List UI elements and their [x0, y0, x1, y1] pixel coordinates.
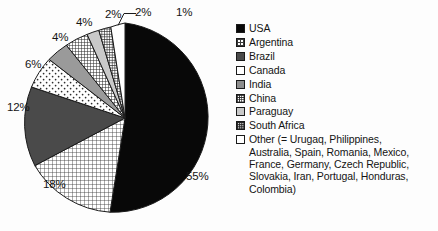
legend-item-china[interactable]: China	[236, 92, 436, 104]
legend-swatch-usa	[236, 24, 245, 33]
legend-label-other: Other (= Urugaq, Philippines, Australia,…	[249, 133, 424, 195]
legend-swatch-brazil	[236, 52, 245, 61]
pie-label-canada: 6%	[25, 58, 41, 70]
pie-label-brazil: 12%	[7, 101, 30, 113]
legend-swatch-canada	[236, 66, 245, 75]
legend-swatch-india	[236, 80, 245, 89]
legend-item-other[interactable]: Other (= Urugaq, Philippines, Australia,…	[236, 133, 436, 195]
legend-label-brazil: Brazil	[249, 50, 275, 62]
legend-label-india: India	[249, 78, 271, 90]
legend-item-brazil[interactable]: Brazil	[236, 50, 436, 62]
legend-swatch-china	[236, 94, 245, 103]
legend-swatch-other	[236, 135, 245, 144]
legend-label-south-africa: South Africa	[249, 119, 304, 131]
pie-label-usa: 55%	[186, 170, 209, 182]
pie-label-south-africa: 2%	[135, 6, 151, 18]
legend-label-canada: Canada	[249, 64, 285, 76]
pie-label-china: 4%	[76, 16, 92, 28]
pie-chart-figure: 55% 18% 12% 6% 4% 4% 2% 2% 1% USA Argent…	[0, 0, 438, 231]
legend-item-argentina[interactable]: Argentina	[236, 36, 436, 48]
legend-label-china: China	[249, 92, 276, 104]
legend-item-india[interactable]: India	[236, 78, 436, 90]
legend-swatch-paraguay	[236, 107, 245, 116]
legend-item-south-africa[interactable]: South Africa	[236, 119, 436, 131]
legend-swatch-argentina	[236, 38, 245, 47]
pie-label-india: 4%	[52, 31, 68, 43]
legend-label-usa: USA	[249, 22, 270, 34]
pie-label-argentina: 18%	[43, 178, 66, 190]
legend-label-paraguay: Paraguay	[249, 105, 293, 117]
legend-item-paraguay[interactable]: Paraguay	[236, 105, 436, 117]
legend-swatch-south-africa	[236, 121, 245, 130]
legend-label-argentina: Argentina	[249, 36, 293, 48]
pie-label-other: 1%	[176, 6, 192, 18]
legend-item-canada[interactable]: Canada	[236, 64, 436, 76]
chart-legend: USA Argentina Brazil Canada India China …	[236, 22, 436, 197]
legend-item-usa[interactable]: USA	[236, 22, 436, 34]
pie-label-paraguay: 2%	[105, 8, 121, 20]
